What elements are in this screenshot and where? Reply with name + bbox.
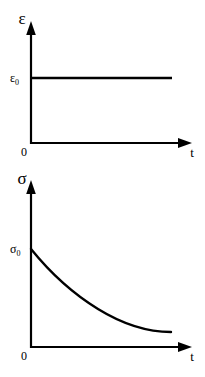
strain-level-tick-subscript: 0	[15, 78, 19, 87]
stress-origin-label: 0	[21, 349, 27, 363]
strain-y-axis-label: ε	[18, 9, 25, 28]
stress-vs-time-chart: σ t σ0 0	[0, 165, 205, 377]
strain-vs-time-chart: ε t ε0 0	[0, 0, 205, 165]
stress-x-axis-label: t	[190, 349, 194, 364]
stress-y-axis-label: σ	[17, 169, 26, 188]
strain-y-axis-arrow-icon	[26, 21, 36, 35]
stress-y-axis-arrow-icon	[26, 180, 36, 194]
strain-origin-label: 0	[21, 145, 27, 159]
stress-level-tick-subscript: 0	[16, 249, 20, 258]
stress-relaxation-figure: ε t ε0 0 σ t σ0	[0, 0, 205, 377]
strain-level-tick-label: ε0	[10, 71, 19, 87]
stress-plot-svg: σ t σ0 0	[0, 165, 205, 377]
stress-relaxation-curve	[31, 249, 171, 332]
stress-level-tick-label: σ0	[10, 242, 20, 258]
strain-x-axis-label: t	[190, 145, 194, 160]
strain-plot-svg: ε t ε0 0	[0, 0, 205, 165]
